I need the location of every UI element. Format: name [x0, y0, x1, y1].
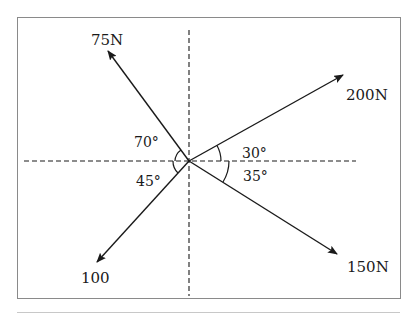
force-label-200n: 200N [346, 86, 388, 104]
force-label-75n: 75N [91, 31, 123, 49]
angle-label-30: 30° [242, 145, 267, 161]
force-label-150n: 150N [347, 258, 389, 276]
angle-arc-45 [173, 161, 178, 173]
force-diagram: 75N 200N 150N 100 70° 30° 35° 45° [0, 0, 416, 328]
angle-label-70: 70° [134, 134, 159, 150]
diagram-frame [18, 18, 401, 299]
angle-arc-35 [223, 161, 229, 182]
angle-label-35: 35° [243, 168, 268, 184]
force-label-100: 100 [81, 269, 110, 287]
angle-arc-30 [217, 146, 221, 162]
angle-arc-70 [175, 150, 181, 161]
angle-label-45: 45° [136, 173, 161, 189]
